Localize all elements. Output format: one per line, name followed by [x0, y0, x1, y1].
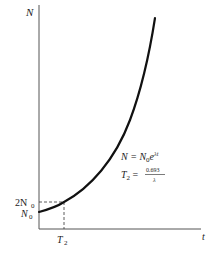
- y-axis-label: N: [25, 6, 34, 18]
- y-tick-2n0: 2N: [15, 197, 27, 208]
- equation-doubling-time: T2 =: [121, 169, 139, 182]
- x-axis-label: t: [202, 231, 205, 242]
- y-tick-n0: N: [20, 208, 29, 219]
- y-tick-2n0-sub: 0: [31, 202, 35, 210]
- x-tick-t2: T: [57, 234, 64, 245]
- y-tick-n0-sub: 0: [29, 213, 33, 221]
- fraction-denominator: λ: [152, 177, 156, 183]
- growth-curve: [39, 18, 155, 212]
- equation-growth: N = N0eλt: [120, 151, 159, 164]
- x-tick-t2-sub: 2: [64, 239, 68, 247]
- fraction-numerator: 0.693: [146, 167, 160, 173]
- exponential-growth-chart: N t 2N . 0 N 0 T 2 N = N0eλt T2 = 0.693 …: [0, 0, 217, 259]
